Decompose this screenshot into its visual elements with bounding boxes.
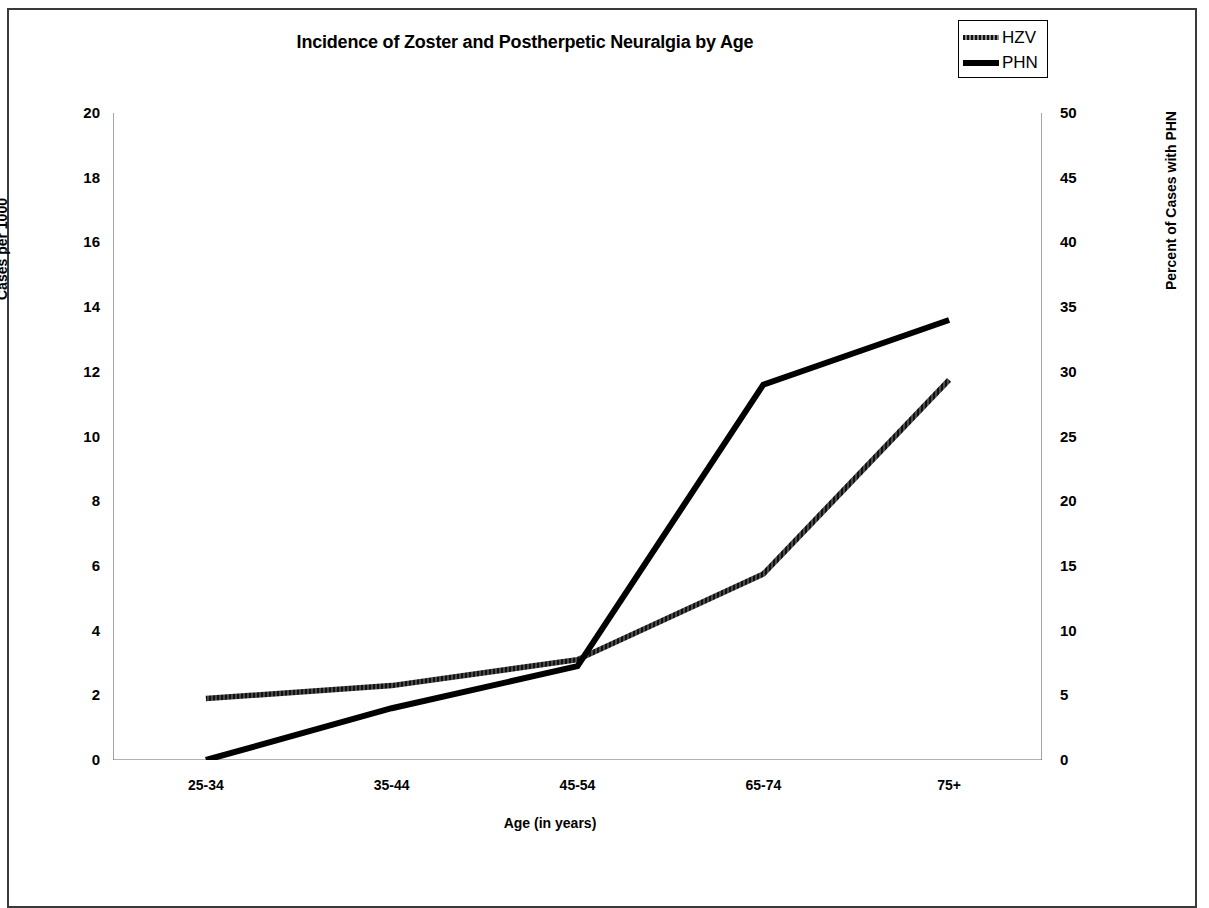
- chart-legend: HZV PHN: [958, 20, 1048, 78]
- y-tick-right-45: 45: [1060, 170, 1112, 185]
- x-tick-25-34: 25-34: [146, 777, 266, 793]
- y-tick-left-2: 2: [48, 687, 100, 702]
- legend-item-phn: PHN: [963, 50, 1047, 75]
- plot-svg: [113, 113, 1042, 760]
- legend-label-hzv: HZV: [1002, 29, 1036, 46]
- x-axis-title: Age (in years): [0, 815, 1100, 831]
- y-tick-left-20: 20: [48, 105, 100, 120]
- phn-line-swatch-icon: [963, 60, 999, 66]
- x-tick-35-44: 35-44: [332, 777, 452, 793]
- y-axis-left-title: Cases per 1000: [0, 120, 10, 300]
- y-tick-left-4: 4: [48, 623, 100, 638]
- y-tick-left-18: 18: [48, 170, 100, 185]
- y-tick-left-14: 14: [48, 299, 100, 314]
- y-tick-left-12: 12: [48, 364, 100, 379]
- y-tick-right-40: 40: [1060, 234, 1112, 249]
- plot-area: [113, 113, 1042, 760]
- y-tick-left-10: 10: [48, 429, 100, 444]
- x-tick-65-74: 65-74: [703, 777, 823, 793]
- y-tick-right-35: 35: [1060, 299, 1112, 314]
- y-tick-right-10: 10: [1060, 623, 1112, 638]
- x-tick-75+: 75+: [889, 777, 1009, 793]
- x-tick-45-54: 45-54: [518, 777, 638, 793]
- y-tick-left-0: 0: [48, 752, 100, 767]
- y-tick-right-15: 15: [1060, 558, 1112, 573]
- y-tick-left-8: 8: [48, 493, 100, 508]
- y-tick-right-25: 25: [1060, 429, 1112, 444]
- y-tick-right-50: 50: [1060, 105, 1112, 120]
- y-axis-right-title: Percent of Cases with PHN: [1163, 30, 1179, 290]
- hzv-line-swatch-icon: [963, 35, 999, 40]
- chart-title: Incidence of Zoster and Postherpetic Neu…: [0, 32, 1050, 53]
- series-line-phn: [206, 320, 949, 760]
- legend-label-phn: PHN: [1002, 54, 1038, 71]
- y-tick-left-16: 16: [48, 234, 100, 249]
- y-tick-right-0: 0: [1060, 752, 1112, 767]
- data-series-group: [206, 320, 949, 760]
- y-tick-right-20: 20: [1060, 493, 1112, 508]
- y-tick-left-6: 6: [48, 558, 100, 573]
- y-tick-right-30: 30: [1060, 364, 1112, 379]
- legend-item-hzv: HZV: [963, 25, 1047, 50]
- series-line-hzv: [206, 380, 949, 699]
- y-tick-right-5: 5: [1060, 687, 1112, 702]
